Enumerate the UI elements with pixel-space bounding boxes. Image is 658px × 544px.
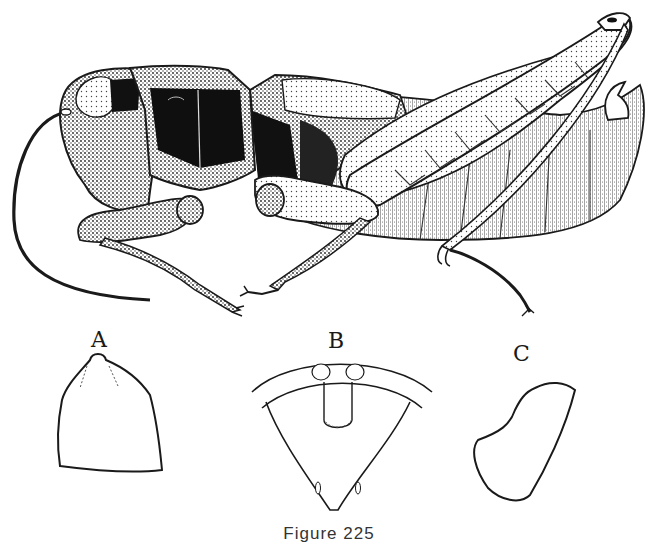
detail-b-inner-arc — [262, 383, 422, 408]
detail-label-a: A — [91, 327, 107, 352]
detail-b-outer-arc — [252, 364, 432, 392]
fore-tibia — [100, 238, 240, 312]
figure-caption: Figure 225 — [0, 524, 658, 544]
cercus — [605, 82, 628, 120]
detail-label-c: C — [513, 341, 530, 366]
detail-b-body — [266, 402, 410, 510]
mid-tibia — [270, 218, 370, 290]
detail-a-outline — [58, 354, 162, 472]
hind-tarsus — [450, 250, 530, 312]
detail-label-b: B — [328, 328, 344, 353]
detail-c-outline — [474, 383, 575, 500]
